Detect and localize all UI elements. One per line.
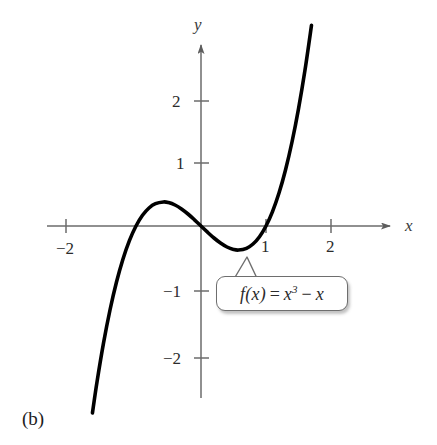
plot-canvas [0, 0, 437, 445]
y-tick-label-neg2: −2 [163, 350, 181, 367]
x-tick-label-1: 1 [261, 238, 270, 255]
figure-caption: (b) [22, 408, 44, 430]
figure-container: y x −2 1 2 2 1 −1 −2 f(x) = x3 − x (b) [0, 0, 437, 445]
x-axis-label: x [405, 217, 413, 234]
callout-term: x [316, 284, 324, 304]
callout-equals: = [270, 284, 280, 304]
x-tick-label-neg2: −2 [56, 240, 74, 257]
x-tick-label-2: 2 [326, 238, 335, 255]
y-tick-label-2: 2 [172, 93, 181, 110]
function-callout-text: f(x) = x3 − x [240, 283, 324, 305]
callout-minus: − [302, 284, 312, 304]
callout-lhs: f(x) [240, 284, 266, 304]
y-tick-label-neg1: −1 [163, 283, 181, 300]
function-curve [92, 25, 311, 413]
y-axis-label: y [194, 16, 202, 33]
function-callout-box: f(x) = x3 − x [216, 276, 348, 311]
y-tick-label-1: 1 [176, 155, 185, 172]
callout-base: x [284, 284, 292, 304]
